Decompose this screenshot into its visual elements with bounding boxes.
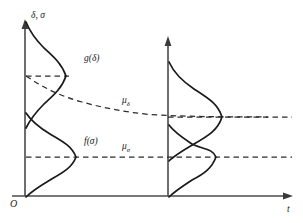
distribution-evolution-chart: δ, σ g(δ) f(σ) μδ μσ O t xyxy=(0,0,303,223)
curve-f-sigma-right xyxy=(169,125,216,197)
mu-delta-decay-curve xyxy=(26,76,268,117)
station-right-arrowhead xyxy=(165,36,172,46)
mu-delta-label: μδ xyxy=(121,95,131,106)
mu-delta-trace-group xyxy=(26,76,268,117)
curve-g-delta-left xyxy=(26,22,66,128)
curve-label-g-delta: g(δ) xyxy=(84,53,100,64)
curve-label-f-sigma: f(σ) xyxy=(84,136,98,147)
figure-canvas: δ, σ g(δ) f(σ) μδ μσ O t xyxy=(0,0,303,223)
curve-f-sigma-left xyxy=(26,113,76,197)
station-left-curves xyxy=(26,22,76,197)
mu-sigma-subscript: σ xyxy=(127,145,131,152)
y-axis-label: δ, σ xyxy=(31,10,45,20)
mu-sigma-label: μσ xyxy=(121,141,131,152)
x-axis-arrowhead xyxy=(283,193,293,200)
figure-caption xyxy=(0,211,303,223)
station-right-curves xyxy=(169,62,222,197)
axes-group xyxy=(12,19,293,199)
origin-label: O xyxy=(10,198,17,209)
labels-group: δ, σ g(δ) f(σ) μδ μσ O t xyxy=(10,10,290,214)
mu-delta-subscript: δ xyxy=(127,99,131,106)
